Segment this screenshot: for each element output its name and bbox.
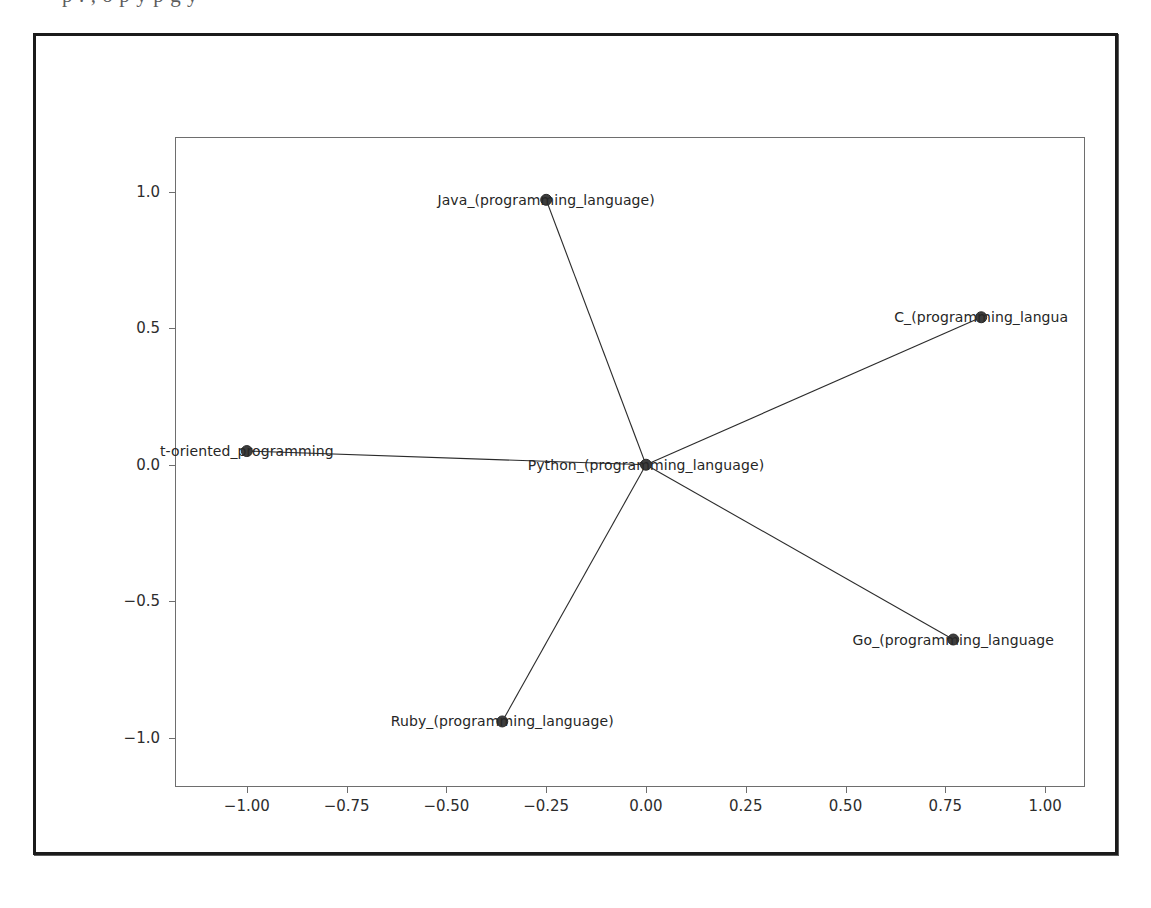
graph-node-label-go: Go_(programming_language <box>853 632 1055 648</box>
x-tick-label: 0.00 <box>629 797 662 815</box>
graph-node-label-python: Python_(programming_language) <box>528 457 765 473</box>
y-tick-mark <box>169 328 175 329</box>
x-tick-label: −0.75 <box>324 797 370 815</box>
graph-edge <box>646 465 953 640</box>
graph-node-label-java: Java_(programming_language) <box>437 192 654 208</box>
x-tick-label: 1.00 <box>1028 797 1061 815</box>
y-tick-mark <box>169 601 175 602</box>
graph-node-label-oop: t-oriented_programming <box>160 443 334 459</box>
y-tick-mark <box>169 738 175 739</box>
graph-edge <box>502 465 646 722</box>
x-tick-label: −0.25 <box>523 797 569 815</box>
graph-node-label-ruby: Ruby_(programming_language) <box>391 713 614 729</box>
x-tick-mark <box>347 787 348 793</box>
x-tick-mark <box>446 787 447 793</box>
x-tick-mark <box>945 787 946 793</box>
y-tick-mark <box>169 465 175 466</box>
x-tick-mark <box>247 787 248 793</box>
y-tick-label: −0.5 <box>100 592 160 610</box>
x-tick-label: −0.50 <box>423 797 469 815</box>
x-tick-label: 0.25 <box>729 797 762 815</box>
x-tick-mark <box>746 787 747 793</box>
x-tick-label: 0.75 <box>929 797 962 815</box>
x-tick-mark <box>646 787 647 793</box>
y-tick-label: 1.0 <box>100 183 160 201</box>
matplotlib-figure: Python_(programming_language)Java_(progr… <box>0 0 1151 908</box>
y-tick-label: 0.5 <box>100 319 160 337</box>
y-tick-label: −1.0 <box>100 729 160 747</box>
x-tick-mark <box>546 787 547 793</box>
x-tick-mark <box>1045 787 1046 793</box>
x-tick-label: 0.50 <box>829 797 862 815</box>
graph-edge <box>646 317 981 464</box>
x-tick-mark <box>846 787 847 793</box>
y-tick-mark <box>169 192 175 193</box>
graph-node-label-c: C_(programming_langua <box>894 309 1068 325</box>
graph-edge <box>546 200 646 465</box>
x-tick-label: −1.00 <box>224 797 270 815</box>
y-tick-label: 0.0 <box>100 456 160 474</box>
